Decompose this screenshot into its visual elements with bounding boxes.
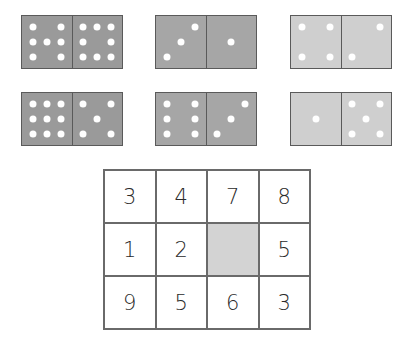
pip-dot-icon bbox=[326, 53, 333, 60]
pip-dot-icon bbox=[108, 101, 115, 108]
domino-right-half bbox=[72, 16, 123, 68]
domino-left-half bbox=[22, 16, 72, 68]
grid-cell: 3 bbox=[259, 276, 311, 329]
pip-dot-icon bbox=[108, 24, 115, 31]
pip-dot-icon bbox=[177, 39, 184, 46]
grid-cell: 1 bbox=[104, 223, 156, 276]
grid-cell: 2 bbox=[156, 223, 208, 276]
pip-dot-icon bbox=[57, 116, 64, 123]
pip-dot-icon bbox=[80, 24, 87, 31]
pip-dot-icon bbox=[43, 101, 50, 108]
pip-dot-icon bbox=[29, 53, 36, 60]
domino-left-half bbox=[156, 93, 206, 145]
pip-dot-icon bbox=[29, 130, 36, 137]
pip-dot-icon bbox=[228, 116, 235, 123]
domino-right-half bbox=[72, 93, 123, 145]
pip-dot-icon bbox=[349, 130, 356, 137]
pip-dot-icon bbox=[57, 101, 64, 108]
domino-6 bbox=[290, 92, 392, 146]
domino-2 bbox=[155, 15, 257, 69]
pip-dot-icon bbox=[349, 101, 356, 108]
pip-dot-icon bbox=[43, 130, 50, 137]
pip-dot-icon bbox=[214, 130, 221, 137]
domino-left-half bbox=[22, 93, 72, 145]
pip-dot-icon bbox=[57, 130, 64, 137]
domino-left-half bbox=[156, 16, 206, 68]
pip-dot-icon bbox=[57, 24, 64, 31]
pip-dot-icon bbox=[29, 24, 36, 31]
grid-cell: 9 bbox=[104, 276, 156, 329]
pip-dot-icon bbox=[43, 39, 50, 46]
grid-cell: 6 bbox=[207, 276, 259, 329]
pip-dot-icon bbox=[163, 53, 170, 60]
domino-5 bbox=[155, 92, 257, 146]
domino-right-half bbox=[341, 93, 392, 145]
domino-right-half bbox=[206, 93, 257, 145]
pip-dot-icon bbox=[29, 101, 36, 108]
grid-cell: 7 bbox=[207, 170, 259, 223]
pip-dot-icon bbox=[191, 24, 198, 31]
pip-dot-icon bbox=[228, 39, 235, 46]
pip-dot-icon bbox=[377, 24, 384, 31]
pip-dot-icon bbox=[57, 53, 64, 60]
pip-dot-icon bbox=[80, 39, 87, 46]
pip-dot-icon bbox=[349, 53, 356, 60]
pip-dot-icon bbox=[363, 116, 370, 123]
domino-4 bbox=[21, 92, 123, 146]
pip-dot-icon bbox=[57, 39, 64, 46]
pip-dot-icon bbox=[94, 53, 101, 60]
domino-right-half bbox=[341, 16, 392, 68]
pip-dot-icon bbox=[326, 24, 333, 31]
pip-dot-icon bbox=[29, 116, 36, 123]
pip-dot-icon bbox=[242, 101, 249, 108]
grid-cell: 8 bbox=[259, 170, 311, 223]
grid-cell: 4 bbox=[156, 170, 208, 223]
domino-left-half bbox=[291, 93, 341, 145]
pip-dot-icon bbox=[94, 116, 101, 123]
pip-dot-icon bbox=[163, 101, 170, 108]
pip-dot-icon bbox=[191, 116, 198, 123]
pip-dot-icon bbox=[94, 24, 101, 31]
pip-dot-icon bbox=[108, 130, 115, 137]
pip-dot-icon bbox=[191, 101, 198, 108]
domino-right-half bbox=[206, 16, 257, 68]
pip-dot-icon bbox=[298, 24, 305, 31]
pip-dot-icon bbox=[163, 130, 170, 137]
pip-dot-icon bbox=[191, 130, 198, 137]
pip-dot-icon bbox=[29, 39, 36, 46]
pip-dot-icon bbox=[298, 53, 305, 60]
pip-dot-icon bbox=[80, 53, 87, 60]
pip-dot-icon bbox=[80, 101, 87, 108]
grid-cell: 5 bbox=[259, 223, 311, 276]
pip-dot-icon bbox=[43, 116, 50, 123]
pip-dot-icon bbox=[108, 39, 115, 46]
pip-dot-icon bbox=[312, 116, 319, 123]
grid-cell: 5 bbox=[156, 276, 208, 329]
pip-dot-icon bbox=[80, 130, 87, 137]
pip-dot-icon bbox=[108, 53, 115, 60]
grid-cell: 3 bbox=[104, 170, 156, 223]
pip-dot-icon bbox=[163, 116, 170, 123]
domino-1 bbox=[21, 15, 123, 69]
number-grid: 34781259563 bbox=[103, 169, 311, 330]
pip-dot-icon bbox=[377, 130, 384, 137]
missing-cell bbox=[207, 223, 259, 276]
domino-3 bbox=[290, 15, 392, 69]
pip-dot-icon bbox=[377, 101, 384, 108]
domino-left-half bbox=[291, 16, 341, 68]
